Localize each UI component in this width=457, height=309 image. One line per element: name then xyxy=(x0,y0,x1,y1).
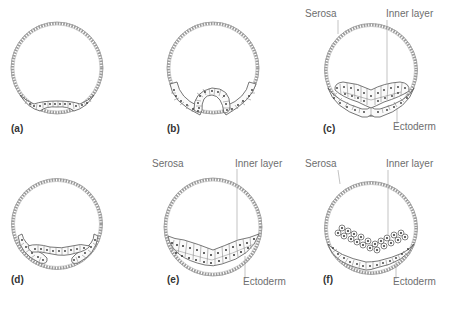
panel-a-drawing xyxy=(11,22,103,114)
panel-label-c: (c) xyxy=(323,124,335,134)
panel-label-b: (b) xyxy=(167,124,180,134)
annotation-inner-layer-f: Inner layer xyxy=(386,159,433,169)
inner-layer-cells xyxy=(335,225,408,253)
annotation-serosa-e: Serosa xyxy=(152,159,184,169)
annotation-serosa-f: Serosa xyxy=(305,159,337,169)
annotation-ectoderm-f: Ectoderm xyxy=(393,277,436,287)
annotation-ectoderm-e: Ectoderm xyxy=(243,277,286,287)
annotation-ectoderm-c: Ectoderm xyxy=(393,122,436,132)
panel-b-drawing xyxy=(167,22,259,115)
embryo-diagram xyxy=(0,0,457,309)
annotation-serosa-c: Serosa xyxy=(305,9,337,19)
panel-label-a: (a) xyxy=(11,124,23,134)
panel-f-drawing xyxy=(325,170,418,279)
annotation-inner-layer-e: Inner layer xyxy=(235,159,282,169)
panel-label-f: (f) xyxy=(323,275,333,285)
panel-e-drawing xyxy=(164,169,262,279)
panel-label-d: (d) xyxy=(11,275,24,285)
annotation-inner-layer-c: Inner layer xyxy=(386,9,433,19)
panel-d-drawing xyxy=(12,179,103,270)
panel-c-drawing xyxy=(325,20,418,124)
panel-label-e: (e) xyxy=(167,275,179,285)
